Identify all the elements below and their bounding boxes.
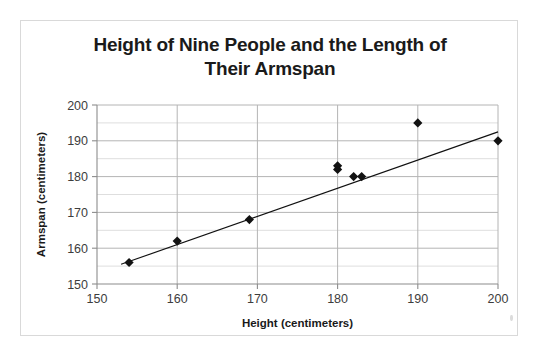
- corner-artifact: [510, 315, 513, 321]
- tick-marks: [92, 105, 498, 289]
- y-tick-label: 180: [67, 170, 88, 184]
- x-axis-tick-labels: 150160170180190200: [87, 292, 509, 306]
- y-tick-label: 150: [67, 278, 88, 292]
- data-point-marker: [173, 236, 182, 245]
- x-tick-label: 200: [488, 292, 509, 306]
- figure-border: Height of Nine People and the Length of …: [20, 20, 518, 336]
- x-tick-label: 180: [327, 292, 348, 306]
- data-point-marker: [357, 172, 366, 181]
- data-point-marker: [245, 215, 254, 224]
- data-point-marker: [493, 136, 502, 145]
- scatter-plot: 150160170180190200 150160170180190200 Ar…: [21, 21, 519, 337]
- x-axis-title: Height (centimeters): [242, 317, 353, 329]
- y-axis-title: Armspan (centimeters): [35, 132, 47, 257]
- minor-gridlines: [97, 123, 498, 266]
- x-tick-label: 160: [167, 292, 188, 306]
- data-point-marker: [349, 172, 358, 181]
- x-tick-label: 170: [247, 292, 268, 306]
- y-tick-label: 190: [67, 134, 88, 148]
- y-tick-label: 160: [67, 242, 88, 256]
- y-tick-label: 170: [67, 206, 88, 220]
- x-tick-label: 190: [407, 292, 428, 306]
- y-tick-label: 200: [67, 99, 88, 113]
- x-tick-label: 150: [87, 292, 108, 306]
- y-axis-tick-labels: 150160170180190200: [67, 99, 88, 292]
- data-point-marker: [413, 118, 422, 127]
